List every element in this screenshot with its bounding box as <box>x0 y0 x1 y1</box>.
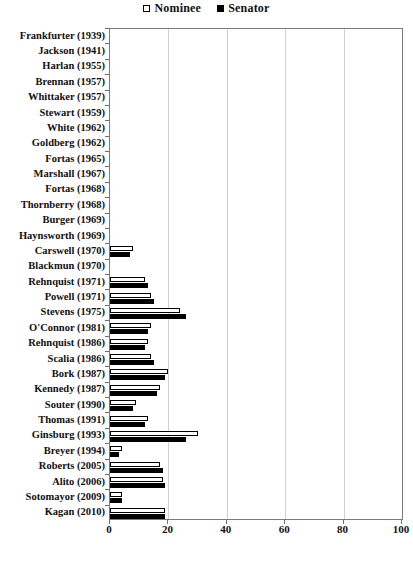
y-axis-label: Breyer (1994) <box>0 446 105 457</box>
bar-row <box>110 214 402 229</box>
y-axis-label: Thomas (1991) <box>0 415 105 426</box>
y-axis-label: Souter (1990) <box>0 400 105 411</box>
bar-senator <box>110 391 157 396</box>
x-axis-tick <box>284 520 285 524</box>
x-axis-tick-label: 40 <box>220 524 231 535</box>
bar-row <box>110 121 402 136</box>
bar-row <box>110 229 402 244</box>
bar-senator <box>110 345 145 350</box>
x-axis-tick <box>109 520 110 524</box>
bar-row <box>110 398 402 413</box>
bar-row <box>110 321 402 336</box>
x-axis-tick-label: 80 <box>337 524 348 535</box>
bar-nominee <box>110 385 160 390</box>
y-axis-label: Rehnquist (1986) <box>0 338 105 349</box>
x-axis-tick-label: 60 <box>279 524 290 535</box>
bar-nominee <box>110 446 122 451</box>
y-axis-label: Kennedy (1987) <box>0 384 105 395</box>
bar-row <box>110 91 402 106</box>
y-axis-label: Fortas (1965) <box>0 154 105 165</box>
bar-row <box>110 198 402 213</box>
bar-row <box>110 413 402 428</box>
y-axis-label: Bork (1987) <box>0 369 105 380</box>
y-axis-label: Whittaker (1957) <box>0 92 105 103</box>
bar-rows <box>110 29 402 519</box>
y-axis-label: Alito (2006) <box>0 477 105 488</box>
bar-nominee <box>110 369 168 374</box>
bar-nominee <box>110 431 198 436</box>
legend-swatch-hollow-square-icon <box>143 5 150 12</box>
x-axis-tick <box>343 520 344 524</box>
y-axis-label: Goldberg (1962) <box>0 138 105 149</box>
bar-row <box>110 352 402 367</box>
x-axis-tick <box>167 520 168 524</box>
bar-senator <box>110 437 186 442</box>
bar-row <box>110 444 402 459</box>
bar-senator <box>110 406 133 411</box>
bar-nominee <box>110 354 151 359</box>
y-axis-label: Stewart (1959) <box>0 108 105 119</box>
y-axis-label: Brennan (1957) <box>0 77 105 88</box>
x-axis-tick-label: 20 <box>162 524 173 535</box>
y-axis-label: Roberts (2005) <box>0 461 105 472</box>
legend-item-senator: Senator <box>217 2 269 14</box>
y-axis-label: Stevens (1975) <box>0 307 105 318</box>
bar-nominee <box>110 323 151 328</box>
bar-nominee <box>110 492 122 497</box>
bar-row <box>110 506 402 521</box>
bar-row <box>110 29 402 44</box>
y-axis-labels: Frankfurter (1939)Jackson (1941)Harlan (… <box>0 28 105 520</box>
bar-nominee <box>110 508 165 513</box>
bar-row <box>110 106 402 121</box>
bar-row <box>110 260 402 275</box>
bar-row <box>110 367 402 382</box>
bar-nominee <box>110 339 148 344</box>
legend-label-nominee: Nominee <box>154 2 201 14</box>
bar-row <box>110 490 402 505</box>
bar-senator <box>110 283 148 288</box>
y-axis-label: Marshall (1967) <box>0 169 105 180</box>
y-axis-label: O'Connor (1981) <box>0 323 105 334</box>
y-axis-label: Burger (1969) <box>0 215 105 226</box>
bar-chart: Nominee Senator Frankfurter (1939)Jackso… <box>0 0 413 580</box>
bar-row <box>110 475 402 490</box>
y-axis-label: Jackson (1941) <box>0 46 105 57</box>
legend-item-nominee: Nominee <box>143 2 201 14</box>
x-axis-labels: 020406080100 <box>0 524 413 544</box>
y-axis-label: Haynsworth (1969) <box>0 231 105 242</box>
bar-nominee <box>110 277 145 282</box>
bar-row <box>110 275 402 290</box>
bar-senator <box>110 514 165 519</box>
bar-senator <box>110 498 122 503</box>
plot-area <box>109 28 403 520</box>
y-axis-label: Rehnquist (1971) <box>0 277 105 288</box>
y-axis-label: Blackmun (1970) <box>0 261 105 272</box>
chart-legend: Nominee Senator <box>0 2 413 14</box>
x-axis-tick-label: 0 <box>106 524 112 535</box>
y-axis-label: Powell (1971) <box>0 292 105 303</box>
bar-row <box>110 152 402 167</box>
bar-nominee <box>110 308 180 313</box>
bar-row <box>110 137 402 152</box>
y-axis-label: Carswell (1970) <box>0 246 105 257</box>
y-axis-label: Ginsburg (1993) <box>0 430 105 441</box>
bar-senator <box>110 483 165 488</box>
y-axis-label: Fortas (1968) <box>0 184 105 195</box>
bar-senator <box>110 299 154 304</box>
bar-nominee <box>110 293 151 298</box>
bar-senator <box>110 375 165 380</box>
bar-row <box>110 60 402 75</box>
bar-nominee <box>110 477 163 482</box>
y-axis-label: White (1962) <box>0 123 105 134</box>
y-axis-label: Frankfurter (1939) <box>0 31 105 42</box>
bar-row <box>110 306 402 321</box>
bar-row <box>110 383 402 398</box>
y-axis-label: Harlan (1955) <box>0 61 105 72</box>
x-axis-tick <box>226 520 227 524</box>
legend-swatch-filled-square-icon <box>217 5 224 12</box>
bar-row <box>110 337 402 352</box>
bar-senator <box>110 422 145 427</box>
bar-row <box>110 290 402 305</box>
bar-nominee <box>110 246 133 251</box>
bar-senator <box>110 452 119 457</box>
